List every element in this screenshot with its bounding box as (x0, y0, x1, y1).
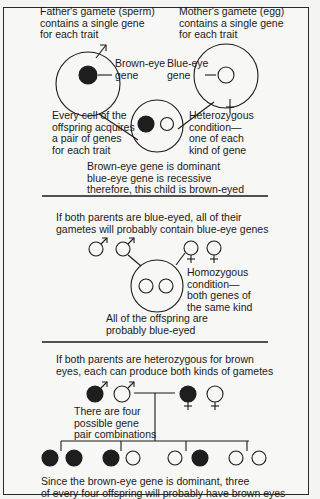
homozygous-label: Homozygous condition— both genes of the … (187, 267, 252, 313)
panel2-conclusion: All of the offspring are probably blue-e… (106, 313, 208, 336)
blue-parents (89, 238, 221, 263)
mother-gamete-label: Mother's gamete (egg) contains a single … (179, 6, 284, 41)
father-gamete (56, 45, 120, 116)
heterozygous-label: Heterozygous condition— one of each kind… (189, 110, 254, 156)
brown-gene-label: Brown-eye gene (115, 58, 165, 81)
panel3-conclusion: Since the brown-eye gene is dominant, th… (41, 476, 285, 499)
panel2-intro: If both parents are blue-eyed, all of th… (56, 212, 268, 235)
panel1-conclusion: Brown-eye gene is dominant blue-eye gene… (87, 161, 244, 196)
offspring-label: Every cell of the offspring acquires a p… (52, 110, 135, 156)
offspring-combinations (42, 450, 266, 466)
offspring-cell (131, 100, 183, 152)
combinations-label: There are four possible gene pair combin… (74, 406, 156, 441)
father-gamete-label: Father's gamete (sperm) contains a singl… (40, 6, 155, 41)
combination-tree (61, 441, 249, 451)
blue-gene-label: Blue-eye gene (167, 58, 208, 81)
blue-gene-icon (218, 67, 234, 83)
brown-gene-icon (79, 66, 97, 84)
blue-offspring-cell (131, 260, 183, 312)
panel3-intro: If both parents are heterozygous for bro… (56, 354, 273, 377)
